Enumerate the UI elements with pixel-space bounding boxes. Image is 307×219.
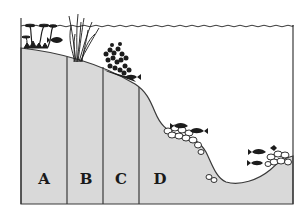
zone-label-b: B	[80, 172, 93, 187]
emergent-reeds	[69, 14, 99, 62]
zone-label-d: D	[153, 172, 166, 187]
lake-cross-section-diagram: A B C D	[0, 0, 307, 219]
water-surface	[21, 25, 293, 27]
zone-label-a: A	[38, 172, 50, 187]
floating-leaf-plants	[22, 24, 57, 49]
zone-label-c: C	[115, 172, 127, 187]
